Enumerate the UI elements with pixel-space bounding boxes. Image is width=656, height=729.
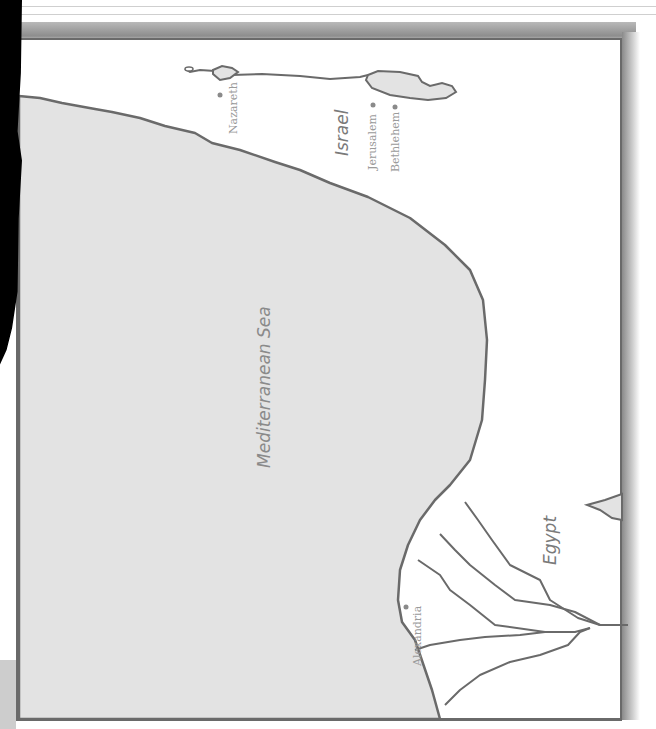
lake-huleh [185, 67, 193, 71]
torn-edge-gray [0, 660, 16, 729]
region-label-egypt: Egypt [540, 516, 560, 565]
red-sea-gulf [587, 494, 622, 520]
alexandria-marker-icon [404, 605, 409, 610]
map-canvas [0, 0, 656, 729]
sea-of-galilee [213, 66, 238, 80]
city-label-nazareth: Nazareth [227, 82, 240, 134]
nazareth-marker-icon [218, 93, 223, 98]
city-label-jerusalem: Jerusalem [366, 114, 379, 170]
dead-sea [366, 71, 456, 100]
city-label-alexandria: Alexandria [411, 606, 424, 666]
region-label-israel: Israel [332, 110, 352, 156]
city-label-bethlehem: Bethlehem [389, 112, 402, 172]
jerusalem-marker-icon [371, 103, 376, 108]
nile-delta [415, 502, 628, 705]
sea-label-mediterranean: Mediterranean Sea [254, 306, 274, 468]
bethlehem-marker-icon [393, 105, 398, 110]
